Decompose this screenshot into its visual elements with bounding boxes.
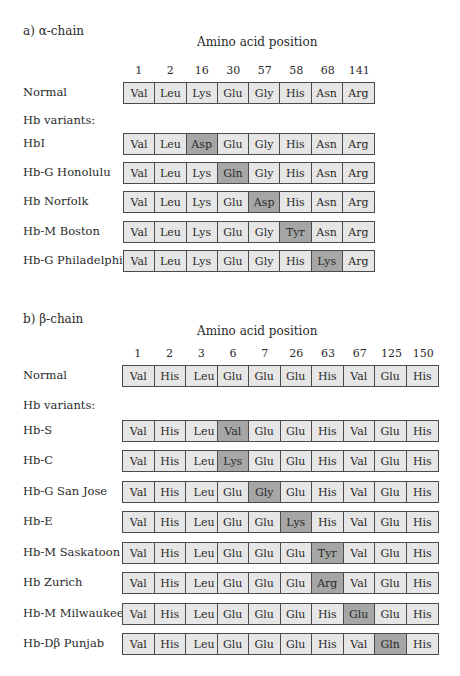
residue-cell: Leu [186, 451, 218, 471]
beta-variants-label: Hb variants: [23, 398, 95, 412]
residue-cell: Leu [186, 366, 218, 386]
variant-sequence-row: ValHisLeuLysGluGluHisValGluHis [122, 450, 439, 472]
residue-cell: His [280, 134, 311, 154]
residue-cell: Val [344, 573, 376, 593]
residue-cell: Arg [343, 222, 374, 242]
residue-cell: Val [344, 421, 376, 441]
residue-cell: Val [344, 366, 376, 386]
residue-cell: Glu [218, 222, 249, 242]
residue-cell: His [312, 634, 344, 654]
position-number: 63 [312, 347, 344, 360]
substituted-residue-cell: Arg [312, 573, 344, 593]
residue-cell: His [407, 451, 439, 471]
position-number: 7 [249, 347, 281, 360]
residue-cell: Val [344, 543, 376, 563]
residue-cell: His [407, 634, 439, 654]
residue-cell: Glu [249, 366, 281, 386]
position-number: 26 [281, 347, 313, 360]
residue-cell: Val [344, 634, 376, 654]
residue-cell: Glu [249, 451, 281, 471]
residue-cell: Leu [155, 134, 186, 154]
residue-cell: Lys [187, 163, 218, 183]
residue-cell: Glu [375, 451, 407, 471]
residue-cell: His [407, 604, 439, 624]
substituted-residue-cell: Val [218, 421, 250, 441]
substituted-residue-cell: Asp [187, 134, 218, 154]
residue-cell: Glu [249, 604, 281, 624]
residue-cell: Glu [249, 573, 281, 593]
residue-cell: Glu [281, 604, 313, 624]
residue-cell: His [312, 366, 344, 386]
residue-cell: Glu [218, 512, 250, 532]
beta-position-heading: Amino acid position [197, 324, 317, 338]
position-number: 30 [218, 64, 250, 77]
residue-cell: Val [123, 366, 155, 386]
substituted-residue-cell: Lys [218, 451, 250, 471]
residue-cell: Leu [155, 83, 186, 103]
position-number: 2 [154, 347, 186, 360]
residue-cell: Glu [249, 543, 281, 563]
residue-cell: Val [123, 543, 155, 563]
residue-cell: His [407, 421, 439, 441]
substituted-residue-cell: Gly [249, 482, 281, 502]
residue-cell: Leu [155, 251, 186, 271]
residue-cell: Glu [375, 512, 407, 532]
residue-cell: Val [344, 512, 376, 532]
position-number: 125 [376, 347, 408, 360]
residue-cell: Arg [343, 83, 374, 103]
variant-label: Hb-M Saskatoon [23, 545, 120, 559]
variant-sequence-row: ValHisLeuGluGluGluHisGluGluHis [122, 603, 439, 625]
residue-cell: Asn [312, 192, 343, 212]
residue-cell: His [407, 366, 439, 386]
variant-sequence-row: ValLeuAspGluGlyHisAsnArg [123, 133, 375, 155]
residue-cell: Val [123, 604, 155, 624]
variant-label: Hb Norfolk [23, 194, 88, 208]
residue-cell: His [407, 512, 439, 532]
substituted-residue-cell: Gln [218, 163, 249, 183]
variant-sequence-row: ValHisLeuGluGluGluHisValGlnHis [122, 633, 439, 655]
variant-label: Hb Zurich [23, 575, 82, 589]
variant-sequence-row: ValLeuLysGluAspHisAsnArg [123, 191, 375, 213]
residue-cell: His [312, 451, 344, 471]
position-number: 150 [407, 347, 439, 360]
position-number: 141 [344, 64, 376, 77]
residue-cell: Arg [343, 192, 374, 212]
residue-cell: Leu [155, 222, 186, 242]
substituted-residue-cell: Tyr [312, 543, 344, 563]
residue-cell: Arg [343, 163, 374, 183]
residue-cell: His [155, 573, 187, 593]
residue-cell: His [280, 83, 311, 103]
position-number: 2 [155, 64, 187, 77]
alpha-variants-label: Hb variants: [23, 113, 95, 127]
residue-cell: His [155, 634, 187, 654]
residue-cell: Val [124, 134, 155, 154]
variant-sequence-row: ValHisLeuGluGluGluArgValGluHis [122, 572, 439, 594]
residue-cell: Asn [312, 83, 343, 103]
residue-cell: Glu [281, 366, 313, 386]
residue-cell: Leu [155, 163, 186, 183]
residue-cell: Val [123, 451, 155, 471]
residue-cell: Val [124, 251, 155, 271]
residue-cell: Leu [155, 192, 186, 212]
residue-cell: Arg [343, 251, 374, 271]
variant-sequence-row: ValHisLeuGluGluGluTyrValGluHis [122, 542, 439, 564]
residue-cell: Leu [186, 604, 218, 624]
residue-cell: Lys [187, 251, 218, 271]
residue-cell: Gly [249, 83, 280, 103]
residue-cell: Lys [187, 222, 218, 242]
residue-cell: Leu [186, 543, 218, 563]
residue-cell: Val [123, 482, 155, 502]
residue-cell: Glu [249, 634, 281, 654]
residue-cell: Glu [375, 482, 407, 502]
variant-label: Hb-G Philadelphia [23, 253, 130, 267]
substituted-residue-cell: Lys [312, 251, 343, 271]
residue-cell: Gly [249, 251, 280, 271]
variant-label: Hb-C [23, 453, 53, 467]
residue-cell: His [280, 163, 311, 183]
residue-cell: Asn [312, 134, 343, 154]
normal-sequence-row: ValHisLeuGluGluGluHisValGluHis [122, 365, 439, 387]
alpha-normal-label: Normal [23, 85, 67, 99]
residue-cell: His [155, 421, 187, 441]
position-number: 1 [122, 347, 154, 360]
residue-cell: Glu [281, 573, 313, 593]
